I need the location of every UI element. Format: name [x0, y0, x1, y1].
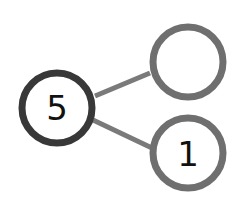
- whole-label: 5: [46, 88, 68, 128]
- part-circle-top[interactable]: [153, 27, 223, 97]
- connector-top: [95, 73, 150, 96]
- part-bottom-label: 1: [177, 134, 199, 174]
- connector-bottom: [93, 120, 152, 148]
- part-circle-bottom: 1: [153, 118, 223, 188]
- number-bond-diagram: 5 1: [0, 0, 241, 203]
- whole-circle: 5: [22, 73, 92, 143]
